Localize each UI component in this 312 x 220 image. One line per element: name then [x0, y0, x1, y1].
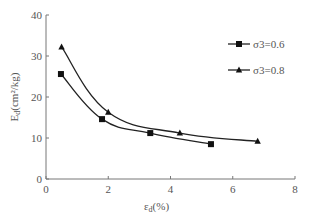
series-triangle: [58, 43, 260, 143]
y-tick-label: 10: [31, 132, 43, 144]
x-tick-label: 8: [292, 183, 298, 195]
x-tick-label: 2: [106, 183, 112, 195]
legend-item: σ3=0.8: [228, 64, 285, 76]
data-point-square: [147, 130, 153, 136]
x-tick-label: 6: [230, 183, 236, 195]
y-axis-label-unit: (cm²/kg): [8, 72, 21, 110]
data-point-square: [208, 141, 214, 147]
y-tick-label: 30: [31, 50, 43, 62]
data-point-square: [99, 116, 105, 122]
legend-item: σ3=0.6: [228, 38, 285, 50]
x-tick-label: 0: [43, 183, 49, 195]
data-point-square: [58, 71, 64, 77]
y-axis-label: Ed(cm²/kg): [8, 72, 22, 121]
x-axis-label: εd(%): [144, 200, 169, 214]
chart: 010203040 02468 Ed(cm²/kg) εd(%) σ3=0.6σ…: [0, 0, 312, 220]
x-axis-label-unit: (%): [153, 200, 170, 213]
series-line: [62, 47, 258, 141]
series-layer: [58, 43, 261, 147]
x-tick-label: 4: [168, 183, 174, 195]
series-square: [58, 71, 214, 147]
data-point-triangle: [58, 43, 64, 49]
y-tick-label: 0: [37, 173, 43, 185]
y-tick-label: 20: [31, 91, 43, 103]
legend-marker-square: [236, 41, 242, 47]
y-tick-label: 40: [31, 9, 43, 21]
legend-label: σ3=0.8: [253, 64, 285, 76]
data-point-triangle: [105, 109, 111, 115]
legend: σ3=0.6σ3=0.8: [228, 38, 285, 76]
legend-label: σ3=0.6: [253, 38, 285, 50]
